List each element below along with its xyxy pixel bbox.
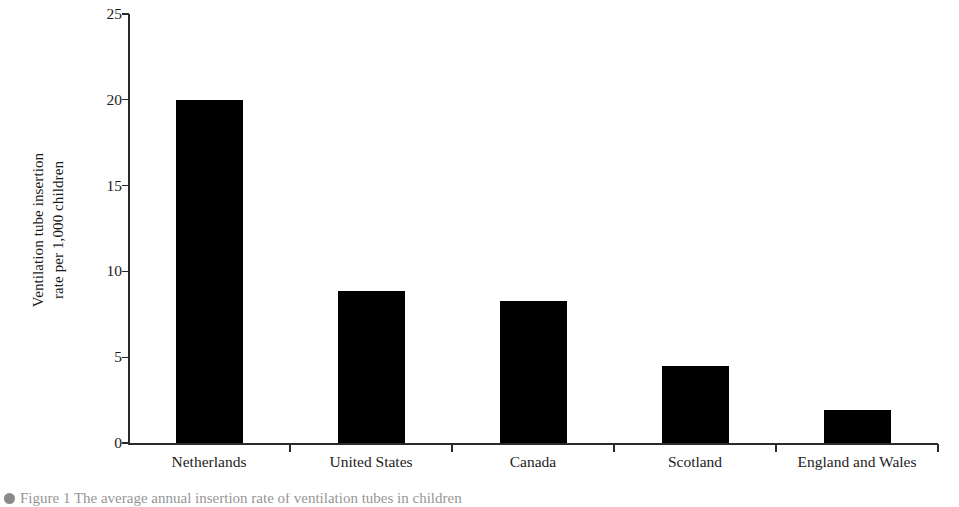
caption-bullet-icon [4,493,15,504]
x-tick-mark [613,444,614,452]
bar [824,410,891,443]
bar-series [128,14,938,444]
y-tick-label-0: 0 [94,436,122,450]
bar [500,301,567,443]
y-axis-title: Ventilation tube insertion rate per 1,00… [0,0,95,460]
plot-area [128,14,938,444]
bar [338,291,405,443]
x-axis-category-labels: NetherlandsUnited StatesCanadaScotlandEn… [128,452,938,478]
y-tick-label-20: 20 [94,93,122,107]
x-tick-mark [937,444,938,452]
y-tick-label-5: 5 [94,350,122,364]
x-axis-label: United States [290,452,452,472]
bar [662,366,729,443]
y-axis-tick-labels: 0510152025 [92,0,122,460]
x-tick-mark [775,444,776,452]
y-tick-label-10: 10 [94,264,122,278]
x-axis-label: Canada [452,452,614,472]
y-axis-title-line-1: Ventilation tube insertion [28,153,48,307]
x-tick-mark [451,444,452,452]
bar-chart-figure: Ventilation tube insertion rate per 1,00… [0,0,959,507]
x-axis-label: England and Wales [776,452,938,472]
x-tick-mark [289,444,290,452]
x-axis-label: Netherlands [128,452,290,472]
y-axis-title-line-2: rate per 1,000 children [48,153,68,307]
y-tick-label-15: 15 [94,179,122,193]
bar [176,100,243,443]
y-tick-label-25: 25 [94,7,122,21]
caption-text: Figure 1 The average annual insertion ra… [20,493,462,506]
x-axis-label: Scotland [614,452,776,472]
figure-caption-clipped: Figure 1 The average annual insertion ra… [0,493,959,507]
